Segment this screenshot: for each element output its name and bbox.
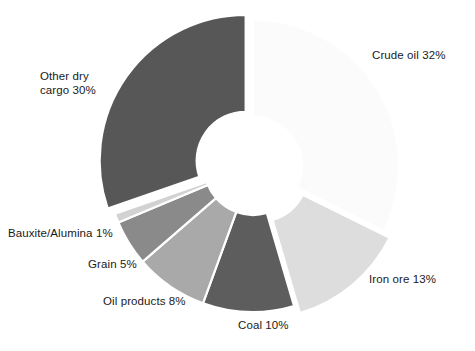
slice-label-bauxite-alumina: Bauxite/Alumina 1% [8,226,113,240]
donut-slices [100,15,399,313]
slice-label-other-dry-cargo-line1: Other dry [40,70,89,82]
slice-label-oil-products: Oil products 8% [103,294,186,308]
slice-label-iron-ore: Iron ore 13% [369,272,436,286]
donut-chart: Crude oil 32% Iron ore 13% Coal 10% Oil … [0,0,475,351]
slice-label-other-dry-cargo: Other drycargo 30% [40,69,96,97]
pie-slice-other-dry-cargo [100,15,246,209]
slice-label-coal: Coal 10% [238,318,289,332]
slice-label-crude-oil: Crude oil 32% [372,48,446,62]
slice-label-grain: Grain 5% [88,257,137,271]
slice-label-other-dry-cargo-line2: cargo 30% [40,84,96,96]
